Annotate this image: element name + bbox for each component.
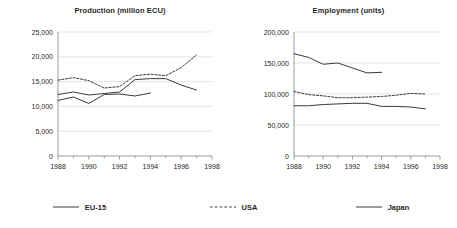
x-tick-label: 1994 <box>374 163 390 170</box>
y-tick-label: 10,000 <box>32 103 54 110</box>
y-tick-label: 150,000 <box>264 60 289 67</box>
legend-label: Japan <box>388 203 410 212</box>
legend-label: USA <box>242 203 258 212</box>
x-tick-label: 1994 <box>143 163 159 170</box>
x-tick-label: 1988 <box>286 163 302 170</box>
solid-line-swatch <box>356 203 382 211</box>
x-tick-label: 1990 <box>315 163 331 170</box>
x-tick-label: 1996 <box>173 163 189 170</box>
series-line-japan <box>294 103 425 109</box>
y-tick-label: 200,000 <box>264 29 289 36</box>
y-tick-label: 50,000 <box>268 122 290 129</box>
series-line-japan <box>58 93 150 103</box>
dashed-line-swatch <box>210 203 236 211</box>
x-tick-label: 1990 <box>81 163 97 170</box>
y-tick-label: 5,000 <box>35 128 53 135</box>
legend-item[interactable]: Japan <box>308 203 457 212</box>
chart-panel-production: Production (million ECU) 05,00010,00015,… <box>0 0 240 190</box>
chart-figure: Production (million ECU) 05,00010,00015,… <box>0 0 457 228</box>
chart-panel-employment: Employment (units) 050,000100,000150,000… <box>240 0 457 190</box>
x-tick-label: 1992 <box>112 163 128 170</box>
x-tick-label: 1998 <box>204 163 220 170</box>
series-line-usa <box>294 92 425 98</box>
legend-item[interactable]: EU-15 <box>0 203 159 212</box>
y-tick-label: 0 <box>285 153 289 160</box>
x-tick-label: 1992 <box>345 163 361 170</box>
plot-area-employment: 050,000100,000150,000200,000198819901992… <box>240 0 457 190</box>
legend-label: EU-15 <box>85 203 106 212</box>
chart-legend: EU-15USAJapan <box>0 194 457 220</box>
y-tick-label: 15,000 <box>32 78 54 85</box>
y-tick-label: 0 <box>49 153 53 160</box>
x-tick-label: 1996 <box>403 163 419 170</box>
y-tick-label: 100,000 <box>264 91 289 98</box>
x-tick-label: 1998 <box>432 163 448 170</box>
plot-area-production: 05,00010,00015,00020,00025,0001988199019… <box>0 0 240 190</box>
y-tick-label: 20,000 <box>32 53 54 60</box>
legend-item[interactable]: USA <box>159 203 308 212</box>
y-tick-label: 25,000 <box>32 29 54 36</box>
solid-line-swatch <box>53 203 79 211</box>
x-tick-label: 1988 <box>50 163 66 170</box>
